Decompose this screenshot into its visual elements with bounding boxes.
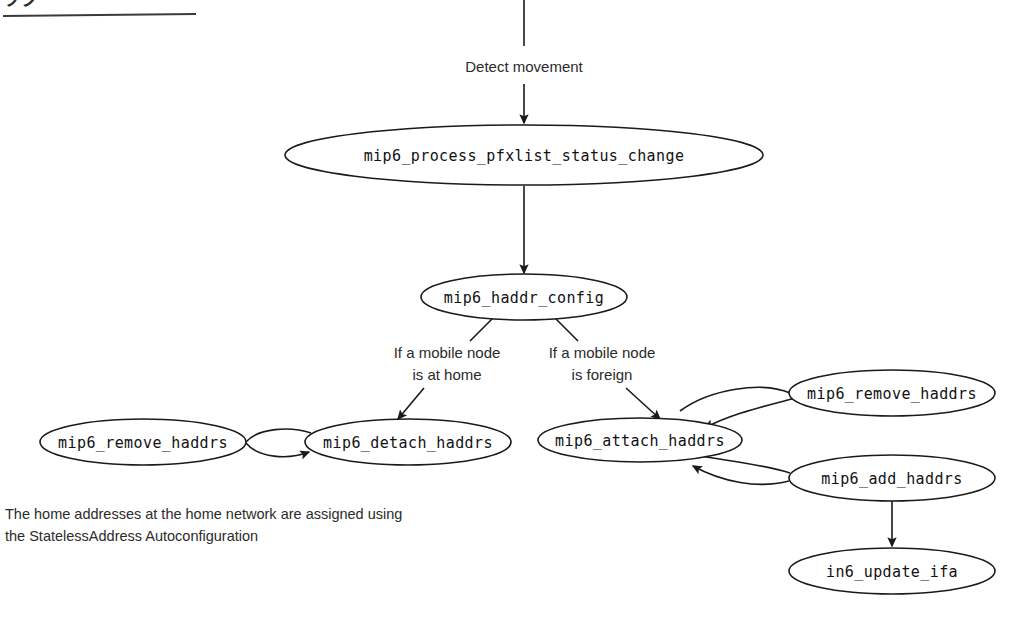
flow-diagram: ッグ mip6_process_pfxlist_status_change — [0, 0, 1016, 621]
edge-foreign-label-to-attach — [626, 388, 660, 419]
header-cropped-text: ッグ — [2, 0, 40, 9]
edge-remove-right-to-attach-lower — [705, 399, 792, 428]
node-label: mip6_process_pfxlist_status_change — [364, 147, 685, 165]
node-in6-update-ifa[interactable]: in6_update_ifa — [789, 548, 995, 594]
node-mip6-process-pfxlist-status-change[interactable]: mip6_process_pfxlist_status_change — [285, 125, 763, 185]
node-mip6-detach-haddrs[interactable]: mip6_detach_haddrs — [305, 419, 511, 465]
header-glyph-text: ッグ — [2, 0, 40, 9]
node-label: mip6_haddr_config — [444, 289, 604, 307]
node-mip6-remove-haddrs-left[interactable]: mip6_remove_haddrs — [40, 419, 246, 465]
node-label: mip6_detach_haddrs — [323, 434, 493, 452]
node-mip6-add-haddrs[interactable]: mip6_add_haddrs — [789, 455, 995, 501]
edge-label-branch-foreign-line1: If a mobile node — [549, 344, 656, 361]
node-label: in6_update_ifa — [826, 563, 958, 581]
edge-label-branch-foreign-line2: is foreign — [572, 366, 633, 383]
diagram-page: ッグ mip6_process_pfxlist_status_change — [0, 0, 1016, 621]
edge-add-to-attach-upper — [701, 456, 790, 473]
node-mip6-haddr-config[interactable]: mip6_haddr_config — [421, 274, 627, 320]
header-rule — [3, 14, 196, 16]
caption-line-2: the StatelessAddress Autoconfiguration — [5, 528, 258, 544]
edge-home-label-to-detach — [398, 388, 424, 419]
node-label: mip6_remove_haddrs — [807, 385, 977, 403]
node-label: mip6_attach_haddrs — [555, 432, 725, 450]
edge-remove-left-to-detach-lower — [246, 443, 309, 457]
edge-remove-right-to-attach-upper — [680, 387, 790, 411]
caption-line-1: The home addresses at the home network a… — [5, 506, 402, 522]
node-label: mip6_remove_haddrs — [58, 434, 228, 452]
node-label: mip6_add_haddrs — [821, 470, 962, 488]
edge-label-branch-home-line1: If a mobile node — [394, 344, 501, 361]
node-mip6-remove-haddrs-right[interactable]: mip6_remove_haddrs — [789, 370, 995, 416]
node-mip6-attach-haddrs[interactable]: mip6_attach_haddrs — [538, 418, 742, 462]
edge-remove-left-to-detach-upper — [246, 429, 311, 442]
edge-label-branch-home-line2: is at home — [412, 366, 481, 383]
edge-label-detect-movement: Detect movement — [465, 58, 583, 75]
